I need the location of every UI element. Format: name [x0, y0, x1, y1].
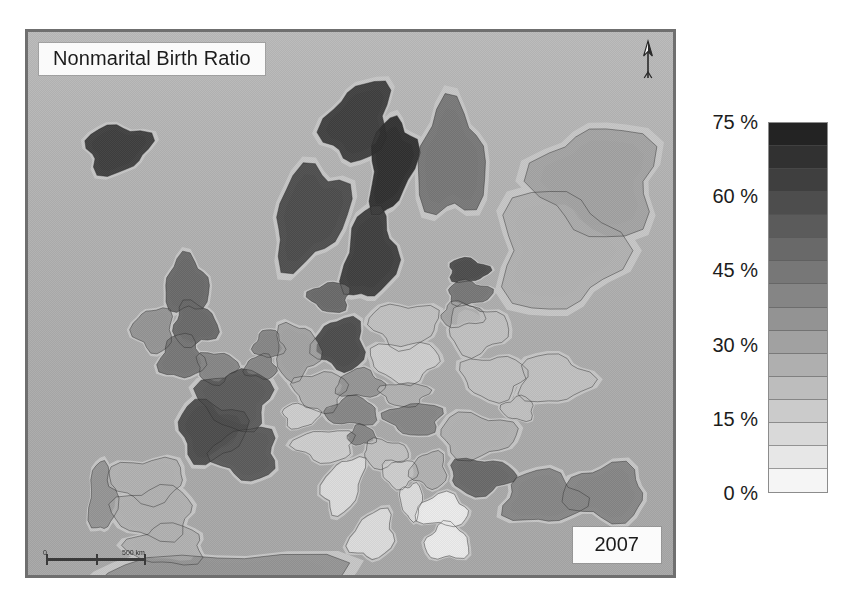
legend-band	[769, 192, 827, 215]
legend-band	[769, 169, 827, 192]
legend-band	[769, 308, 827, 331]
north-arrow-icon	[637, 38, 659, 84]
choropleth-map-canvas	[28, 32, 673, 575]
legend-tick-label: 60 %	[712, 186, 758, 206]
scale-bar-min-label: 0	[43, 549, 47, 556]
map-title-box: Nonmarital Birth Ratio	[39, 43, 265, 75]
scale-bar-max-label: 500 km	[122, 549, 145, 556]
legend-band	[769, 238, 827, 261]
legend-band	[769, 446, 827, 469]
legend-band	[769, 469, 827, 492]
legend-band	[769, 215, 827, 238]
legend-tick-label: 30 %	[712, 335, 758, 355]
year-label: 2007	[595, 533, 640, 555]
legend-colorbar	[768, 122, 828, 493]
legend-tick-label: 0 %	[724, 483, 758, 503]
legend-band	[769, 261, 827, 284]
legend-labels: 75 %60 %45 %30 %15 %0 %	[690, 112, 762, 503]
legend-band	[769, 377, 827, 400]
legend-tick-label: 75 %	[712, 112, 758, 132]
map-panel: Nonmarital Birth Ratio 0 500 km 2007	[25, 29, 676, 578]
legend-tick-label: 45 %	[712, 260, 758, 280]
scale-bar-tick-mid	[96, 554, 98, 565]
legend: 75 %60 %45 %30 %15 %0 %	[690, 112, 836, 502]
legend-band	[769, 146, 827, 169]
legend-tick-label: 15 %	[712, 409, 758, 429]
map-scale-bar: 0 500 km	[40, 549, 160, 567]
legend-band	[769, 423, 827, 446]
legend-band	[769, 331, 827, 354]
legend-band	[769, 284, 827, 307]
legend-band	[769, 123, 827, 146]
page-title: Nonmarital Birth Ratio	[53, 47, 251, 69]
legend-band	[769, 400, 827, 423]
map-year-box: 2007	[573, 527, 662, 563]
legend-band	[769, 354, 827, 377]
